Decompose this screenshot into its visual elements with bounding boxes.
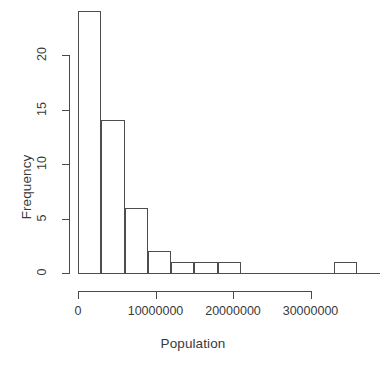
histogram-bar [101,120,124,274]
histogram-bar [148,251,171,274]
histogram-bar [334,262,357,274]
histogram-bar [171,262,194,274]
histogram-bar [218,262,241,274]
histogram-bar [78,11,101,274]
histogram-bar [194,262,217,274]
histogram-bar [125,208,148,274]
